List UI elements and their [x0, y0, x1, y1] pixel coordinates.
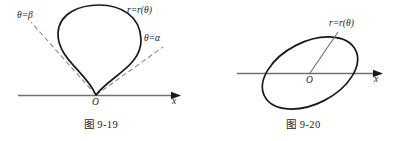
ray-theta-beta	[31, 22, 96, 95]
label-curve-r-theta: r=r(θ)	[127, 5, 152, 15]
figure-pair-page: θ=β r=r(θ) θ=α O x 图 9-19 r=r(θ) O x 图 9…	[0, 0, 405, 141]
label-x-axis-left: x	[172, 96, 176, 106]
label-x-axis-right: x	[374, 74, 378, 84]
label-origin-left: O	[92, 97, 99, 107]
figure-9-19: θ=β r=r(θ) θ=α O x 图 9-19	[0, 0, 202, 141]
label-theta-beta: θ=β	[17, 10, 33, 20]
caption-figure-9-19: 图 9-19	[0, 116, 202, 131]
polar-curve-teardrop	[58, 5, 141, 95]
label-curve-r-theta: r=r(θ)	[329, 18, 354, 28]
label-theta-alpha: θ=α	[144, 33, 160, 43]
label-origin-right: O	[306, 75, 313, 85]
caption-figure-9-20: 图 9-20	[202, 116, 405, 131]
figure-9-20-graphic	[202, 0, 405, 116]
ray-theta-alpha	[96, 47, 163, 95]
figure-9-20: r=r(θ) O x 图 9-20	[202, 0, 405, 141]
polar-curve-ellipse	[250, 22, 369, 116]
